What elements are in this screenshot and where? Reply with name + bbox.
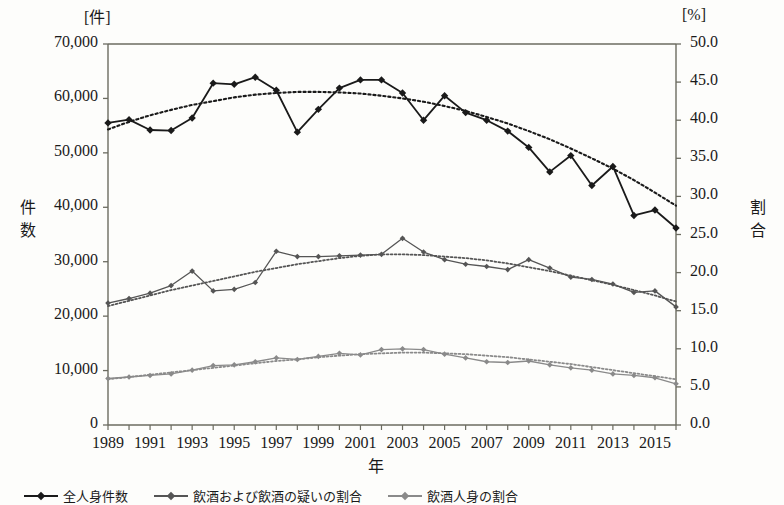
trendline-2: [108, 353, 676, 380]
data-point: [147, 373, 153, 379]
legend-label: 全人身件数: [63, 486, 128, 505]
data-point: [568, 365, 574, 371]
data-point: [104, 119, 111, 126]
data-point: [673, 381, 679, 387]
data-point: [505, 360, 511, 366]
data-point: [442, 257, 448, 263]
dataline-0: [108, 77, 676, 228]
data-point: [146, 126, 153, 133]
data-point: [357, 76, 364, 83]
series-1: [105, 235, 679, 309]
legend-key-icon: [154, 491, 188, 501]
data-point: [126, 374, 132, 380]
data-point: [463, 355, 469, 361]
data-point: [526, 257, 532, 263]
data-point: [484, 359, 490, 365]
series-2: [105, 346, 679, 387]
data-series-layer: [104, 74, 679, 387]
data-point: [610, 281, 616, 287]
data-point: [484, 264, 490, 270]
data-point: [483, 117, 490, 124]
legend-label: 飲酒および飲酒の疑いの割合: [193, 486, 362, 505]
legend-label: 飲酒人身の割合: [427, 486, 518, 505]
trendline-0: [108, 92, 676, 206]
legend-item-2[interactable]: 飲酒人身の割合: [388, 486, 518, 505]
data-point: [295, 357, 301, 363]
data-point: [189, 367, 195, 373]
data-point: [400, 346, 406, 352]
legend-item-1[interactable]: 飲酒および飲酒の疑いの割合: [154, 486, 362, 505]
data-point: [421, 347, 427, 353]
legend-diamond-icon: [37, 491, 45, 499]
data-point: [316, 254, 322, 260]
data-point: [231, 362, 237, 368]
data-point: [295, 254, 301, 260]
data-point: [610, 371, 616, 377]
data-point: [231, 287, 237, 293]
legend-key-icon: [24, 491, 58, 501]
legend-diamond-icon: [401, 491, 409, 499]
data-point: [505, 267, 511, 273]
data-point: [316, 354, 322, 360]
legend-diamond-icon: [167, 491, 175, 499]
axis-tick-marks: [103, 44, 681, 430]
data-point: [442, 351, 448, 357]
data-point: [358, 352, 364, 358]
legend-key-icon: [388, 491, 422, 501]
series-0: [104, 74, 679, 232]
data-point: [231, 81, 238, 88]
data-point: [273, 355, 279, 361]
chart-legend: 全人身件数飲酒および飲酒の疑いの割合飲酒人身の割合: [24, 486, 518, 505]
data-point: [358, 252, 364, 258]
legend-item-0[interactable]: 全人身件数: [24, 486, 128, 505]
data-point: [379, 347, 385, 353]
data-point: [463, 261, 469, 267]
axis-lines: [108, 44, 676, 425]
data-point: [630, 212, 637, 219]
data-point: [105, 376, 111, 382]
